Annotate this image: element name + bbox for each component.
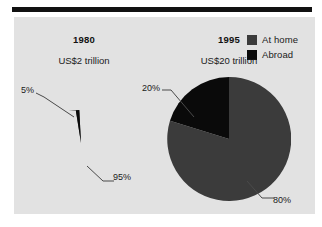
chart-1995: 1995 US$20 trillion 20% 80% xyxy=(154,17,315,214)
chart-1995-leader-at-home xyxy=(246,180,276,204)
chart-1980-title: 1980 xyxy=(49,34,119,45)
chart-1980: 1980 US$2 trillion 5% 95% xyxy=(14,17,164,214)
chart-1995-label-abroad: 20% xyxy=(142,83,160,93)
figure-root: At home Abroad 1980 US$2 trillion xyxy=(0,0,322,227)
chart-1995-subtitle: US$20 trillion xyxy=(179,55,279,66)
top-rule-divider xyxy=(12,7,312,12)
chart-1980-leader-abroad xyxy=(36,90,81,120)
chart-1995-leader-abroad xyxy=(162,87,196,121)
chart-1980-subtitle: US$2 trillion xyxy=(34,55,134,66)
chart-1980-leader-at-home xyxy=(86,165,116,187)
chart-panel: At home Abroad 1980 US$2 trillion xyxy=(14,17,315,214)
chart-1980-label-abroad: 5% xyxy=(21,85,34,95)
chart-1995-title: 1995 xyxy=(194,34,264,45)
